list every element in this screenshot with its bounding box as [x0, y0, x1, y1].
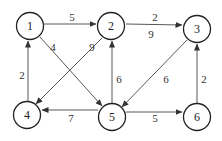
edge-label-5-4: 7 — [68, 112, 74, 124]
node-label-3: 3 — [194, 22, 200, 36]
node-label-1: 1 — [27, 19, 33, 33]
node-label-4: 4 — [24, 108, 30, 122]
edge-label-2-4: 9 — [89, 41, 95, 53]
node-3: 3 — [184, 16, 211, 43]
edge-label-1-2: 5 — [69, 11, 75, 23]
node-1: 1 — [17, 13, 44, 40]
graph-diagram: 5 2 9 4 2 6 6 7 5 2 9 1 2 3 4 5 6 — [0, 0, 222, 141]
edge-2-3 — [126, 24, 182, 25]
node-6: 6 — [184, 104, 211, 131]
edge-label-5-2: 6 — [116, 73, 122, 85]
edge-label-2-3: 2 — [152, 11, 158, 23]
node-label-6: 6 — [194, 110, 200, 124]
node-label-5: 5 — [109, 110, 115, 124]
node-5: 5 — [99, 104, 126, 131]
edge-label-3-5: 6 — [163, 73, 169, 85]
edge-label-1-5: 4 — [50, 41, 56, 53]
edge-label-6-3: 2 — [201, 73, 207, 85]
edge-label-5-6: 5 — [152, 112, 158, 124]
node-label-2: 2 — [108, 19, 114, 33]
edge-label-4-1: 2 — [19, 69, 25, 81]
extra-label: 9 — [148, 28, 154, 40]
node-2: 2 — [98, 13, 125, 40]
edge-3-5 — [122, 40, 187, 107]
node-4: 4 — [14, 102, 41, 129]
